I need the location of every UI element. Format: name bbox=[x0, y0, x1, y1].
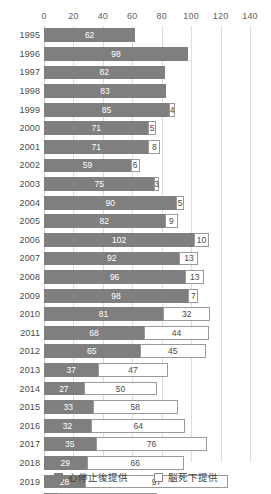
bar-value-label: 10 bbox=[197, 235, 206, 245]
bar-segment: 32 bbox=[44, 419, 91, 433]
bar-segment: 50 bbox=[84, 382, 158, 396]
chart-row: 2003753 bbox=[0, 175, 271, 194]
legend-swatch-filled-icon bbox=[54, 473, 63, 482]
chart-row: 2000715 bbox=[0, 119, 271, 138]
x-axis-tick-0: 0 bbox=[41, 11, 46, 21]
bar-value-label: 76 bbox=[147, 439, 156, 449]
chart-legend: 心停止後提供 脳死下提供 bbox=[0, 470, 271, 484]
bar-segment: 76 bbox=[96, 437, 208, 451]
bar-value-label: 13 bbox=[184, 253, 193, 263]
bar-value-label: 96 bbox=[110, 272, 119, 282]
bar-value-label: 32 bbox=[63, 421, 72, 431]
bar-value-label: 83 bbox=[100, 86, 109, 96]
row-bars: 3264 bbox=[44, 419, 250, 433]
chart-row: 20126545 bbox=[0, 342, 271, 361]
bar-value-label: 68 bbox=[89, 328, 98, 338]
x-axis-tick-80: 80 bbox=[156, 11, 166, 21]
bar-segment: 62 bbox=[44, 28, 135, 42]
x-axis-tick-20: 20 bbox=[68, 11, 78, 21]
bar-value-label: 102 bbox=[112, 235, 126, 245]
row-bars: 3358 bbox=[44, 400, 250, 414]
bar-segment: 4 bbox=[169, 103, 175, 117]
row-bars: 2750 bbox=[44, 382, 250, 396]
chart-row: 20108132 bbox=[0, 305, 271, 324]
chart-row: 2004905 bbox=[0, 193, 271, 212]
bar-value-label: 8 bbox=[152, 142, 157, 152]
row-label-1996: 1996 bbox=[0, 49, 40, 59]
bar-segment: 59 bbox=[44, 159, 131, 173]
bar-value-label: 4 bbox=[170, 105, 175, 115]
row-bars: 62 bbox=[44, 28, 250, 42]
bar-segment: 83 bbox=[44, 84, 166, 98]
row-label-2017: 2017 bbox=[0, 439, 40, 449]
bar-value-label: 98 bbox=[111, 49, 120, 59]
bar-segment: 33 bbox=[44, 400, 93, 414]
row-bars: 9613 bbox=[44, 270, 250, 284]
row-label-2000: 2000 bbox=[0, 123, 40, 133]
bar-segment: 90 bbox=[44, 196, 176, 210]
chart-row: 1999854 bbox=[0, 100, 271, 119]
chart-row: 199562 bbox=[0, 26, 271, 45]
bar-segment: 65 bbox=[44, 344, 140, 358]
row-label-2003: 2003 bbox=[0, 179, 40, 189]
row-bars: 715 bbox=[44, 121, 250, 135]
bar-segment: 58 bbox=[93, 400, 178, 414]
row-bars: 8132 bbox=[44, 307, 250, 321]
row-bars: 753 bbox=[44, 177, 250, 191]
row-label-2015: 2015 bbox=[0, 402, 40, 412]
bar-value-label: 65 bbox=[87, 346, 96, 356]
row-label-1997: 1997 bbox=[0, 67, 40, 77]
row-bars: 3747 bbox=[44, 363, 250, 377]
row-label-2012: 2012 bbox=[0, 346, 40, 356]
bar-segment: 13 bbox=[179, 252, 198, 266]
row-label-2002: 2002 bbox=[0, 160, 40, 170]
bar-value-label: 64 bbox=[133, 421, 142, 431]
row-label-2006: 2006 bbox=[0, 235, 40, 245]
bar-value-label: 44 bbox=[172, 328, 181, 338]
chart-row: 200610210 bbox=[0, 231, 271, 250]
row-bars: 2966 bbox=[44, 456, 250, 470]
bar-value-label: 13 bbox=[190, 272, 199, 282]
legend-swatch-outlined-icon bbox=[154, 473, 163, 482]
bar-segment: 9 bbox=[165, 214, 178, 228]
row-bars: 6844 bbox=[44, 326, 250, 340]
row-label-1995: 1995 bbox=[0, 30, 40, 40]
bar-value-label: 6 bbox=[133, 160, 138, 170]
row-bars: 9213 bbox=[44, 252, 250, 266]
legend-item-1: 脳死下提供 bbox=[154, 470, 218, 484]
chart-row: 20133747 bbox=[0, 361, 271, 380]
bar-segment: 96 bbox=[44, 270, 185, 284]
bar-value-label: 35 bbox=[65, 439, 74, 449]
bar-segment: 82 bbox=[44, 214, 165, 228]
row-bars: 98 bbox=[44, 47, 250, 61]
legend-item-0: 心停止後提供 bbox=[54, 470, 128, 484]
bar-segment: 8 bbox=[148, 140, 160, 154]
legend-label-0: 心停止後提供 bbox=[68, 470, 128, 484]
bar-segment: 45 bbox=[140, 344, 206, 358]
bar-value-label: 58 bbox=[130, 402, 139, 412]
bar-segment: 32 bbox=[163, 307, 210, 321]
chart-row: 2002596 bbox=[0, 156, 271, 175]
bar-segment: 27 bbox=[44, 382, 84, 396]
bar-segment: 37 bbox=[44, 363, 98, 377]
x-axis-tick-60: 60 bbox=[127, 11, 137, 21]
chart-rows: 1995621996981997821998831999854200071520… bbox=[0, 26, 271, 494]
bar-segment: 5 bbox=[148, 121, 155, 135]
bar-value-label: 27 bbox=[59, 384, 68, 394]
row-bars: 854 bbox=[44, 103, 250, 117]
bar-value-label: 92 bbox=[107, 253, 116, 263]
bar-segment: 75 bbox=[44, 177, 154, 191]
bar-segment: 29 bbox=[44, 456, 87, 470]
chart-row: 20153358 bbox=[0, 398, 271, 417]
row-bars: 905 bbox=[44, 196, 250, 210]
bar-value-label: 98 bbox=[111, 291, 120, 301]
bar-segment: 82 bbox=[44, 66, 165, 80]
chart-row: 199698 bbox=[0, 45, 271, 64]
chart-row: 20079213 bbox=[0, 249, 271, 268]
bar-segment: 64 bbox=[91, 419, 185, 433]
bar-value-label: 85 bbox=[102, 105, 111, 115]
row-label-2018: 2018 bbox=[0, 458, 40, 468]
row-bars: 82 bbox=[44, 66, 250, 80]
chart-row: 199883 bbox=[0, 82, 271, 101]
x-axis-tick-40: 40 bbox=[98, 11, 108, 21]
